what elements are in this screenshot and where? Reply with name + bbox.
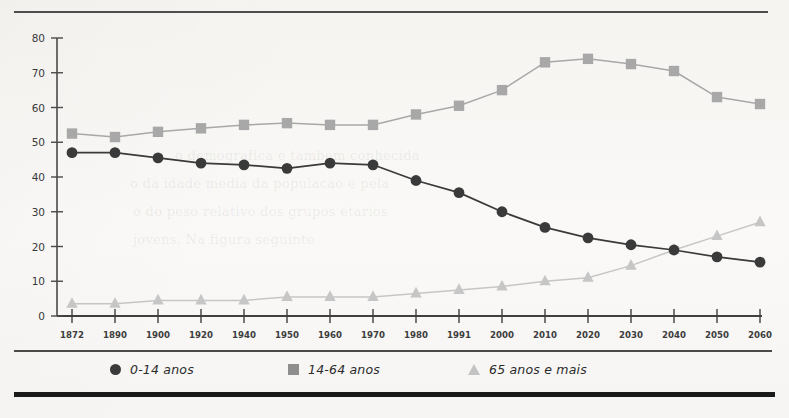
legend-label-14-64-anos: 14-64 anos xyxy=(308,362,380,377)
data-point-circle[interactable] xyxy=(282,163,293,174)
circle-marker-icon xyxy=(110,364,121,375)
data-point-circle[interactable] xyxy=(755,257,766,268)
x-axis-tick-label: 2020 xyxy=(576,330,600,340)
data-point-circle[interactable] xyxy=(540,222,551,233)
x-axis-tick-label: 1872 xyxy=(60,330,84,340)
x-axis-tick-label: 1950 xyxy=(275,330,299,340)
data-point-triangle[interactable] xyxy=(496,280,507,291)
data-point-circle[interactable] xyxy=(325,158,336,169)
x-axis-tick-label: 1900 xyxy=(146,330,170,340)
x-axis-tick-label: 1980 xyxy=(404,330,428,340)
y-axis-tick-label: 0 xyxy=(38,310,45,322)
data-point-square[interactable] xyxy=(497,85,507,95)
x-axis-tick-label: 1991 xyxy=(447,330,471,340)
line-chart-svg: 0102030405060708018721890190019201940195… xyxy=(0,0,789,360)
data-point-square[interactable] xyxy=(67,128,77,138)
data-point-triangle[interactable] xyxy=(281,290,292,301)
x-axis-tick-label: 2010 xyxy=(533,330,557,340)
y-axis-tick-label: 80 xyxy=(32,32,45,44)
legend-label-0-14-anos: 0-14 anos xyxy=(130,362,194,377)
data-point-circle[interactable] xyxy=(67,147,78,158)
data-point-circle[interactable] xyxy=(411,175,422,186)
x-axis-tick-label: 2050 xyxy=(705,330,729,340)
y-axis-tick-label: 70 xyxy=(32,67,45,79)
data-point-square[interactable] xyxy=(282,118,292,128)
triangle-marker-icon xyxy=(468,364,480,375)
data-point-triangle[interactable] xyxy=(238,294,249,305)
data-point-triangle[interactable] xyxy=(367,290,378,301)
y-axis-tick-label: 10 xyxy=(32,275,45,287)
x-axis-tick-label: 2040 xyxy=(662,330,686,340)
data-point-triangle[interactable] xyxy=(324,290,335,301)
chart-legend: 0-14 anos 14-64 anos 65 anos e mais xyxy=(0,356,789,390)
bottom-divider-rule xyxy=(14,392,775,397)
data-point-triangle[interactable] xyxy=(453,283,464,294)
x-axis-tick-label: 1940 xyxy=(232,330,256,340)
data-point-square[interactable] xyxy=(239,120,249,130)
data-point-triangle[interactable] xyxy=(754,216,765,227)
data-point-square[interactable] xyxy=(411,109,421,119)
data-point-circle[interactable] xyxy=(583,232,594,243)
data-point-circle[interactable] xyxy=(153,152,164,163)
square-marker-icon xyxy=(288,364,299,375)
data-point-circle[interactable] xyxy=(454,187,465,198)
data-point-square[interactable] xyxy=(712,92,722,102)
x-axis-tick-label: 2000 xyxy=(490,330,514,340)
x-axis-tick-label: 2030 xyxy=(619,330,643,340)
y-axis-tick-label: 30 xyxy=(32,206,45,218)
y-axis-tick-label: 40 xyxy=(32,171,45,183)
data-point-circle[interactable] xyxy=(497,206,508,217)
data-point-square[interactable] xyxy=(325,120,335,130)
data-point-triangle[interactable] xyxy=(152,294,163,305)
y-axis-tick-label: 50 xyxy=(32,136,45,148)
data-point-triangle[interactable] xyxy=(410,287,421,298)
data-point-square[interactable] xyxy=(755,99,765,109)
data-point-triangle[interactable] xyxy=(539,275,550,286)
y-axis-tick-label: 60 xyxy=(32,102,45,114)
legend-item-14-64-anos[interactable]: 14-64 anos xyxy=(288,362,380,377)
data-point-triangle[interactable] xyxy=(66,297,77,308)
data-point-square[interactable] xyxy=(669,66,679,76)
legend-item-65-anos-e-mais[interactable]: 65 anos e mais xyxy=(468,362,587,377)
data-point-square[interactable] xyxy=(196,123,206,133)
data-point-triangle[interactable] xyxy=(109,297,120,308)
legend-item-0-14-anos[interactable]: 0-14 anos xyxy=(110,362,194,377)
data-point-circle[interactable] xyxy=(110,147,121,158)
data-point-square[interactable] xyxy=(583,54,593,64)
data-point-triangle[interactable] xyxy=(195,294,206,305)
series-line-circle xyxy=(72,153,760,262)
x-axis-tick-label: 1970 xyxy=(361,330,385,340)
legend-label-65-anos-e-mais: 65 anos e mais xyxy=(489,362,587,377)
x-axis-tick-label: 1960 xyxy=(318,330,342,340)
series-line-square xyxy=(72,59,760,137)
data-point-circle[interactable] xyxy=(239,159,250,170)
x-axis-tick-label: 1920 xyxy=(189,330,213,340)
data-point-square[interactable] xyxy=(454,101,464,111)
data-point-circle[interactable] xyxy=(196,158,207,169)
chart-plot-area: 0102030405060708018721890190019201940195… xyxy=(0,0,789,360)
data-point-circle[interactable] xyxy=(669,245,680,256)
x-axis-tick-label: 2060 xyxy=(748,330,772,340)
data-point-square[interactable] xyxy=(153,127,163,137)
data-point-circle[interactable] xyxy=(368,159,379,170)
y-axis-tick-label: 20 xyxy=(32,241,45,253)
data-point-square[interactable] xyxy=(110,132,120,142)
data-point-square[interactable] xyxy=(368,120,378,130)
data-point-circle[interactable] xyxy=(626,239,637,250)
legend-divider-rule xyxy=(14,350,772,352)
data-point-square[interactable] xyxy=(540,57,550,67)
data-point-square[interactable] xyxy=(626,59,636,69)
x-axis-tick-label: 1890 xyxy=(103,330,127,340)
data-point-circle[interactable] xyxy=(712,252,723,263)
